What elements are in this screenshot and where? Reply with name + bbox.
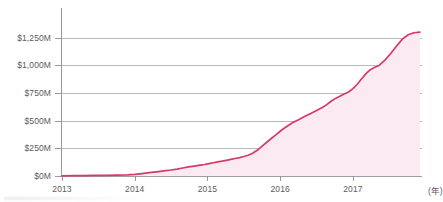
y-axis-label: $1,000M (17, 60, 51, 70)
cumulative-area-series (62, 24, 422, 176)
x-tick-mark (280, 176, 281, 181)
x-axis-unit-label: (年) (428, 184, 443, 196)
y-axis-label: $500M (25, 116, 52, 126)
series-fill (62, 32, 420, 176)
x-tick-mark (62, 176, 63, 181)
y-tick-mark (55, 176, 62, 177)
x-axis-label: 2017 (343, 184, 362, 194)
x-tick-mark (353, 176, 354, 181)
y-tick-mark (55, 93, 62, 94)
y-axis-label: $750M (25, 88, 52, 98)
x-axis-label: 2013 (52, 184, 71, 194)
y-axis-label: $0M (34, 171, 51, 181)
x-axis-label: 2016 (271, 184, 290, 194)
x-tick-mark (135, 176, 136, 181)
x-axis-label: 2015 (198, 184, 217, 194)
x-axis-label: 2014 (125, 184, 144, 194)
y-axis-label: $250M (25, 143, 52, 153)
y-tick-mark (55, 121, 62, 122)
scan-artifact (4, 197, 154, 200)
y-tick-mark (55, 38, 62, 39)
gridline-0M (62, 176, 422, 177)
y-axis-label: $1,250M (17, 33, 51, 43)
y-tick-mark (55, 148, 62, 149)
x-tick-mark (207, 176, 208, 181)
y-tick-mark (55, 65, 62, 66)
plot-area: $0M$250M$500M$750M$1,000M$1,250M 2013201… (62, 24, 422, 176)
